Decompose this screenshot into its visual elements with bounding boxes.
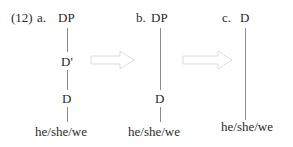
tree-c-leaf: he/she/we xyxy=(221,120,273,133)
tree-b-branch-2 xyxy=(160,107,161,122)
tree-a-leaf: he/she/we xyxy=(35,125,87,138)
tree-b-leaf: he/she/we xyxy=(128,125,180,138)
tree-a-node-dp: DP xyxy=(58,11,75,24)
tree-b-node-d: D xyxy=(155,92,164,105)
tree-a-node-d: D xyxy=(62,92,71,105)
example-number: (12) xyxy=(11,11,33,24)
tree-a-branch-1 xyxy=(67,28,68,52)
tree-a-branch-3 xyxy=(67,107,68,122)
right-arrow-icon xyxy=(182,50,234,70)
tree-b-label: b. xyxy=(136,11,146,24)
tree-c-node-d: D xyxy=(240,11,249,24)
tree-b-node-dp: DP xyxy=(151,11,168,24)
tree-a-node-dbar: D' xyxy=(61,55,73,68)
tree-a-branch-2 xyxy=(67,70,68,90)
tree-a-label: a. xyxy=(37,11,46,24)
tree-c-branch-1 xyxy=(245,28,246,120)
tree-c-label: c. xyxy=(222,11,231,24)
tree-b-branch-1 xyxy=(160,28,161,90)
right-arrow-icon xyxy=(90,50,136,70)
